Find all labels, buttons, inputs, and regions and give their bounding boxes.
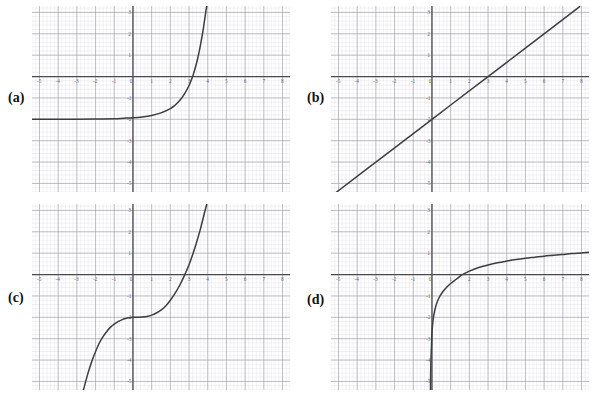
x-tick-label: -3 [74,276,79,282]
x-tick-label: 1 [449,276,452,282]
x-tick-label: 6 [543,78,546,84]
panel-label-d: (d) [307,292,324,308]
plot-svg-b: -5-4-3-2-1012345678321-1-2-3-4-5 [331,6,589,192]
panel-label-b: (b) [307,90,324,106]
x-tick-label: -2 [93,78,98,84]
x-tick-label: 8 [281,276,284,282]
y-tick-label: -5 [127,378,132,384]
panel-b: (b) -5-4-3-2-1012345678321-1-2-3-4-5 [299,0,598,198]
y-tick-label: -3 [426,138,431,144]
x-tick-label: 8 [580,78,583,84]
y-tick-label: 3 [128,9,131,15]
plot-c: -5-4-3-2-1012345678321-1-2-3-4-5 [32,204,290,390]
y-tick-label: -1 [426,293,431,299]
x-tick-label: 8 [281,78,284,84]
plot-a: -5-4-3-2-1012345678321-1-2-3-4-5 [32,6,290,192]
x-tick-label: 4 [206,276,209,282]
x-tick-label: -2 [392,276,397,282]
x-tick-label: 0 [130,78,133,84]
x-tick-label: 5 [524,78,527,84]
x-tick-label: -1 [112,276,117,282]
x-tick-label: 5 [225,276,228,282]
x-tick-label: -2 [93,276,98,282]
y-tick-label: 2 [427,31,430,37]
y-tick-label: 1 [128,250,131,256]
x-tick-label: -4 [355,78,360,84]
plot-svg-c: -5-4-3-2-1012345678321-1-2-3-4-5 [32,204,290,390]
y-tick-labels: 321-1-2-3-4-5 [127,207,132,384]
x-tick-label: 7 [262,276,265,282]
x-tick-label: 0 [429,78,432,84]
y-tick-label: 3 [427,207,430,213]
x-tick-label: -5 [37,78,42,84]
x-tick-label: 1 [150,276,153,282]
x-tick-label: 1 [449,78,452,84]
x-tick-label: 0 [130,276,133,282]
graph-sheet: (a) -5-4-3-2-1012345678321-1-2-3-4-5 (b)… [0,0,598,396]
x-tick-label: -3 [373,276,378,282]
x-tick-label: -3 [74,78,79,84]
panel-c: (c) -5-4-3-2-1012345678321-1-2-3-4-5 [0,198,299,396]
x-tick-label: -2 [392,78,397,84]
grid-major [32,6,290,192]
y-tick-label: -5 [127,180,132,186]
x-tick-label: 7 [561,78,564,84]
x-tick-label: 3 [487,276,490,282]
y-tick-label: -4 [127,159,132,165]
y-tick-label: -1 [426,95,431,101]
y-tick-label: -3 [127,138,132,144]
y-tick-label: -4 [127,357,132,363]
x-tick-label: -1 [411,78,416,84]
x-tick-label: 5 [225,78,228,84]
x-tick-label: 4 [206,78,209,84]
x-tick-label: -4 [355,276,360,282]
x-tick-label: 6 [244,78,247,84]
y-tick-label: 2 [427,229,430,235]
x-tick-label: 4 [505,276,508,282]
panel-label-a: (a) [8,90,24,106]
x-tick-label: 0 [429,276,432,282]
panel-d: (d) -5-4-3-2-1012345678321-1-2-3-4-5 [299,198,598,396]
y-tick-label: 1 [427,52,430,58]
y-tick-labels: 321-1-2-3-4-5 [127,9,132,186]
y-tick-label: -4 [426,357,431,363]
x-tick-label: 4 [505,78,508,84]
plot-b: -5-4-3-2-1012345678321-1-2-3-4-5 [331,6,589,192]
x-tick-label: 3 [487,78,490,84]
x-tick-label: -1 [112,78,117,84]
grid-major [331,204,589,390]
x-tick-label: 6 [543,276,546,282]
y-tick-label: -3 [127,336,132,342]
x-tick-label: -5 [336,78,341,84]
grid-major [331,6,589,192]
y-tick-label: 2 [128,31,131,37]
x-tick-label: 7 [262,78,265,84]
y-tick-label: -5 [426,180,431,186]
x-tick-label: 5 [524,276,527,282]
panel-a: (a) -5-4-3-2-1012345678321-1-2-3-4-5 [0,0,299,198]
y-tick-label: -1 [127,293,132,299]
grid-major [32,204,290,390]
y-tick-label: 1 [128,52,131,58]
x-tick-label: 8 [580,276,583,282]
y-tick-label: 3 [427,9,430,15]
x-tick-label: 2 [169,78,172,84]
x-tick-label: -3 [373,78,378,84]
y-tick-label: -1 [127,95,132,101]
x-tick-label: 3 [188,276,191,282]
x-tick-label: 2 [169,276,172,282]
panel-label-c: (c) [8,290,24,306]
y-tick-labels: 321-1-2-3-4-5 [426,9,431,186]
plot-svg-d: -5-4-3-2-1012345678321-1-2-3-4-5 [331,204,589,390]
x-tick-label: -4 [56,276,61,282]
x-tick-label: 1 [150,78,153,84]
x-tick-label: -5 [336,276,341,282]
plot-svg-a: -5-4-3-2-1012345678321-1-2-3-4-5 [32,6,290,192]
y-tick-labels: 321-1-2-3-4-5 [426,207,431,384]
x-tick-label: -4 [56,78,61,84]
x-tick-label: -1 [411,276,416,282]
x-tick-label: 7 [561,276,564,282]
x-tick-label: 6 [244,276,247,282]
y-tick-label: -4 [426,159,431,165]
y-tick-label: 2 [128,229,131,235]
